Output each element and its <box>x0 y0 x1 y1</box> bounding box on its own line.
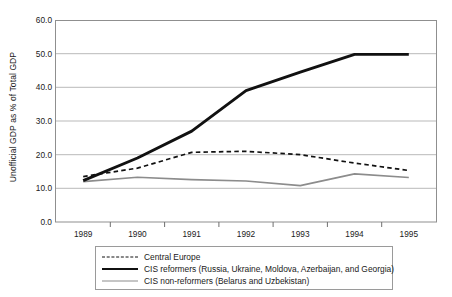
legend-item-label: CIS reformers (Russia, Ukraine, Moldova,… <box>144 264 394 274</box>
x-tick-label: 1994 <box>345 229 363 239</box>
x-axis-ticks <box>110 222 381 227</box>
x-tick-label: 1990 <box>128 229 146 239</box>
legend-item-label: Central Europe <box>144 252 200 262</box>
x-tick-label: 1991 <box>182 229 200 239</box>
x-tick-label: 1993 <box>291 229 309 239</box>
x-tick-label: 1992 <box>237 229 255 239</box>
legend-item-cis-non-reformers: CIS non-reformers (Belarus and Uzbekista… <box>102 274 309 287</box>
thick-black-line-icon <box>102 264 138 274</box>
dashed-black-line-icon <box>102 252 138 262</box>
chart-container: Unofficial GDP as % of Total GDP 60.0 50… <box>0 0 452 297</box>
thin-gray-line-icon <box>102 276 138 286</box>
legend-item-label: CIS non-reformers (Belarus and Uzbekista… <box>144 276 309 286</box>
x-tick-label: 1989 <box>74 229 92 239</box>
chart-legend: Central Europe CIS reformers (Russia, Uk… <box>95 246 393 290</box>
x-tick-label: 1995 <box>400 229 418 239</box>
